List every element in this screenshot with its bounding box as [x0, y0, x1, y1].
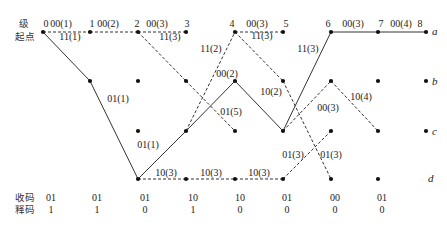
trellis-node-8a [424, 30, 428, 34]
branch-label: 00(3) [317, 102, 339, 114]
received-code-value: 10 [235, 192, 245, 203]
branch-label: 11(3) [251, 30, 272, 42]
stage-number: 4 [230, 18, 235, 29]
received-code-value: 10 [188, 192, 198, 203]
trellis-node-2d [136, 177, 140, 181]
state-label-b: b [432, 75, 438, 87]
stage-number: 6 [326, 18, 331, 29]
stage-number: 7 [379, 18, 384, 29]
received-code-value: 01 [92, 192, 102, 203]
branch-label: 01(1) [137, 139, 159, 151]
decoded-code-value: 1 [49, 204, 54, 215]
branch-label: 01(3) [320, 149, 342, 161]
branch-label: 11(3) [297, 43, 318, 55]
branch-label: 01(5) [220, 106, 242, 118]
decoded-code-value: 1 [191, 204, 196, 215]
decoded-code-value: 0 [285, 204, 290, 215]
branch-label: 00(3) [146, 18, 168, 30]
received-code-row: 收码 01 01 01 10 10 01 00 01 [15, 192, 387, 203]
trellis-node-6d [329, 177, 333, 181]
trellis-node-0a [41, 30, 45, 34]
trellis-node-7d [376, 177, 380, 181]
stage-number: 3 [185, 18, 190, 29]
trellis-node-4c [233, 129, 237, 133]
state-label-a: a [432, 25, 438, 37]
trellis-node-4b [233, 79, 237, 83]
received-code-value: 01 [140, 192, 150, 203]
trellis-node-1a [88, 30, 92, 34]
trellis-node-8c [424, 129, 428, 133]
trellis-node-7a [376, 30, 380, 34]
trellis-node-4d [233, 177, 237, 181]
branch-label: 11(3) [159, 31, 180, 43]
branch-label: 00(3) [342, 18, 364, 30]
received-code-value: 01 [46, 192, 56, 203]
trellis-node-6c [329, 129, 333, 133]
stage-number: 0 [44, 18, 49, 29]
trellis-node-5b [281, 79, 285, 83]
viterbi-trellis-diagram: 级 起点 0 1 2 3 4 5 6 7 8 00(1) 11(1) 00(2)… [0, 0, 447, 229]
trellis-node-5c [281, 129, 285, 133]
trellis-node-5d [281, 177, 285, 181]
trellis-node-2a [136, 30, 140, 34]
trellis-node-5a [281, 30, 285, 34]
state-label-c: c [432, 125, 437, 137]
branch-label: 00(1) [50, 18, 72, 30]
trellis-node-2b [136, 79, 140, 83]
trellis-node-7b [376, 79, 380, 83]
branch-label: 01(3) [282, 149, 304, 161]
decoded-code-value: 0 [380, 204, 385, 215]
trellis-node-3b [184, 79, 188, 83]
branch-label: 11(1) [59, 31, 80, 43]
branch-label: 10(3) [155, 167, 177, 179]
branch-label: 10(3) [200, 167, 222, 179]
branch-label: 00(4) [390, 18, 412, 30]
trellis-node-8b [424, 79, 428, 83]
received-code-label: 收码 [15, 192, 35, 203]
decoded-code-value: 0 [333, 204, 338, 215]
start-heading: 起点 [15, 31, 35, 42]
received-code-value: 01 [282, 192, 292, 203]
branch-labels: 00(1) 11(1) 00(2) 00(3) 11(3) 01(1) 01(1… [50, 18, 412, 179]
stage-number: 2 [135, 18, 140, 29]
state-labels: a b c d [428, 25, 438, 184]
branch-5b-6d [283, 81, 331, 179]
trellis-node-2c [136, 129, 140, 133]
stage-number: 1 [90, 18, 95, 29]
branch-label: 00(2) [97, 18, 119, 30]
branch-label: 00(2) [216, 68, 238, 80]
state-label-d: d [428, 172, 434, 184]
trellis-node-3c [184, 129, 188, 133]
trellis-node-1b [88, 79, 92, 83]
branch-label: 10(3) [248, 167, 270, 179]
decoded-code-value: 0 [238, 204, 243, 215]
stage-number: 8 [418, 18, 423, 29]
trellis-node-4a [233, 30, 237, 34]
received-code-value: 01 [377, 192, 387, 203]
trellis-node-7c [376, 129, 380, 133]
branch-label: 11(2) [200, 43, 221, 55]
decoded-code-value: 0 [143, 204, 148, 215]
branch-label: 01(1) [107, 93, 129, 105]
decoded-code-label: 释码 [15, 204, 35, 215]
trellis-node-3d [184, 177, 188, 181]
stage-number: 5 [284, 18, 289, 29]
branch-label: 10(4) [350, 91, 372, 103]
received-code-value: 00 [330, 192, 340, 203]
decoded-code-value: 1 [95, 204, 100, 215]
stage-heading: 级 [19, 18, 29, 29]
trellis-node-6b [329, 79, 333, 83]
decoded-code-row: 释码 1 1 0 1 0 0 0 0 [15, 204, 385, 215]
trellis-node-6a [329, 30, 333, 34]
branch-label: 00(3) [246, 18, 268, 30]
branch-label: 10(2) [260, 86, 282, 98]
trellis-node-3a [184, 30, 188, 34]
